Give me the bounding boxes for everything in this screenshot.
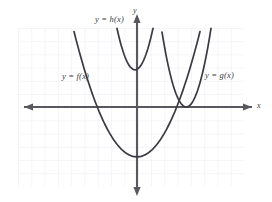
x-axis-label: x — [257, 101, 261, 110]
graph-figure: y = h(x) y = f(x) y = g(x) y x — [0, 0, 272, 202]
coordinate-plane-svg — [0, 0, 272, 202]
curve-label-h: y = h(x) — [95, 14, 124, 24]
y-axis-label: y — [133, 6, 137, 15]
curve-label-f: y = f(x) — [62, 71, 89, 81]
curve-label-g: y = g(x) — [205, 70, 234, 80]
